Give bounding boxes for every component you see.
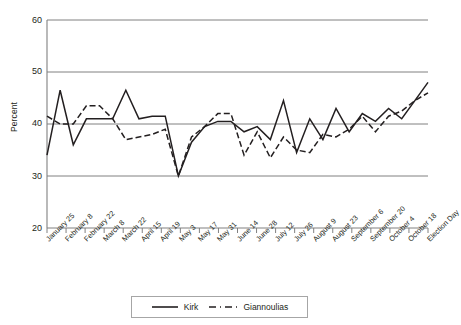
chart-legend: Kirk Giannoulias (131, 296, 308, 318)
legend-label-giannoulias: Giannoulias (243, 302, 288, 312)
series-line-kirk (47, 82, 428, 176)
legend-swatch-solid (151, 303, 179, 311)
legend-item-kirk: Kirk (151, 302, 199, 312)
gridlines (47, 20, 428, 228)
legend-label-kirk: Kirk (184, 302, 199, 312)
series-lines (47, 82, 428, 176)
legend-item-giannoulias: Giannoulias (208, 302, 288, 312)
legend-swatch-dashed (208, 303, 238, 311)
series-line-giannoulias (47, 93, 428, 176)
